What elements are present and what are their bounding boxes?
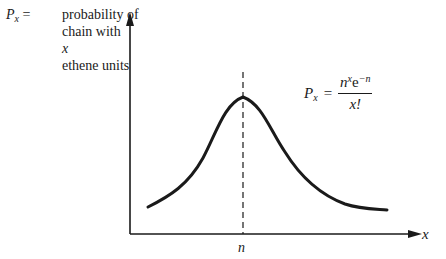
y-axis-arrow-icon [126, 12, 134, 26]
plot-area [0, 0, 446, 259]
distribution-curve [148, 97, 387, 210]
x-axis-label: x [422, 226, 429, 243]
x-axis-arrow-icon [408, 230, 422, 238]
peak-n-label: n [238, 240, 245, 256]
